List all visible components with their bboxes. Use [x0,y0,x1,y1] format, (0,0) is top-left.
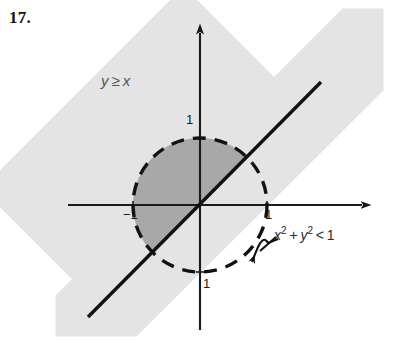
tick-label-x-negative-one: −1 [123,207,138,222]
circle-plus-sign: + [289,227,297,243]
label-variable-x: x [123,72,131,89]
tick-label-y-bottom: 1 [203,276,210,291]
label-circle-inequality: x2 + y2 < 1 [274,227,335,243]
region-diagram-svg [0,0,405,351]
circle-relation-less-than: < [316,227,324,243]
label-variable-y: y [101,72,109,89]
label-relation-geq: ≥ [112,72,120,89]
tick-label-x-positive-one: 1 [265,207,272,222]
circle-term-x: x [274,227,281,243]
figure-container: 17. [0,0,405,351]
label-half-plane-inequality: y ≥ x [101,72,130,89]
tick-label-y-top: 1 [186,112,193,127]
circle-value-one: 1 [327,227,335,243]
